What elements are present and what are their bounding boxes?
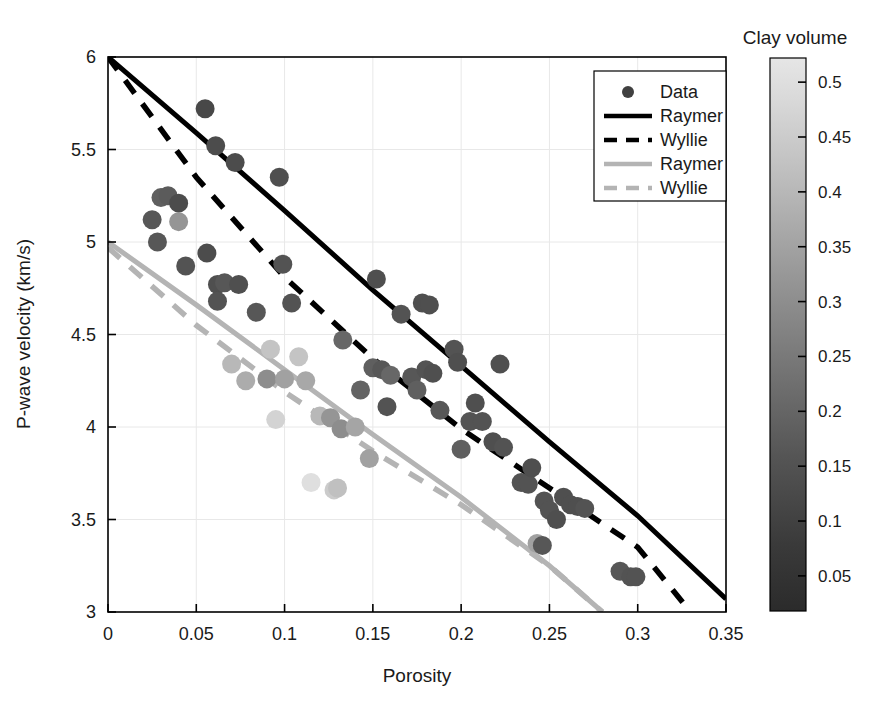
data-point [273, 255, 292, 274]
colorbar-tick-label: 0.4 [818, 183, 842, 202]
x-tick-label: 0.35 [708, 624, 743, 644]
data-point [392, 305, 411, 324]
x-tick-label: 0.05 [179, 624, 214, 644]
data-point [490, 355, 509, 374]
data-point [360, 449, 379, 468]
legend-item-label: Wyllie [660, 130, 708, 150]
data-point [377, 397, 396, 416]
data-point [575, 499, 594, 518]
data-point [423, 364, 442, 383]
x-axis-label: Porosity [383, 665, 452, 686]
data-point [289, 347, 308, 366]
data-point [176, 257, 195, 276]
data-point [367, 270, 386, 289]
x-tick-label: 0.2 [449, 624, 474, 644]
y-tick-label: 5.5 [71, 140, 96, 160]
colorbar: Clay volume 0.050.10.150.20.250.30.350.4… [743, 27, 851, 611]
legend-item-label: Raymer [660, 106, 723, 126]
data-point [257, 369, 276, 388]
x-tick-label: 0.25 [532, 624, 567, 644]
y-tick-label: 4 [86, 417, 96, 437]
legend-item-label: Raymer [660, 154, 723, 174]
colorbar-tick-label: 0.3 [818, 293, 842, 312]
x-tick-label: 0.3 [625, 624, 650, 644]
data-point [148, 233, 167, 252]
colorbar-tick-label: 0.15 [818, 457, 851, 476]
colorbar-title: Clay volume [743, 27, 848, 48]
data-point [473, 412, 492, 431]
data-point [275, 369, 294, 388]
data-point [143, 210, 162, 229]
plot-canvas: 00.050.10.150.20.250.30.35 33.544.555.56… [0, 0, 882, 708]
y-axis-label: P-wave velocity (km/s) [13, 239, 34, 429]
data-point [247, 303, 266, 322]
y-tick-label: 5 [86, 232, 96, 252]
data-point [261, 340, 280, 359]
data-point [270, 168, 289, 187]
colorbar-tick-label: 0.05 [818, 567, 851, 586]
colorbar-tick-label: 0.1 [818, 512, 842, 531]
data-point [266, 410, 285, 429]
colorbar-tick-label: 0.45 [818, 128, 851, 147]
data-point [533, 536, 552, 555]
data-point [302, 473, 321, 492]
data-point [296, 371, 315, 390]
y-tick-label: 3 [86, 602, 96, 622]
data-point [448, 353, 467, 372]
colorbar-tick-label: 0.35 [818, 238, 851, 257]
data-point [222, 355, 241, 374]
legend-item-label: Data [660, 82, 699, 102]
data-point [466, 393, 485, 412]
data-point [522, 458, 541, 477]
data-point [196, 99, 215, 118]
data-point [626, 567, 645, 586]
colorbar-tick-label: 0.2 [818, 402, 842, 421]
data-point [547, 510, 566, 529]
figure-container: 00.050.10.150.20.250.30.35 33.544.555.56… [0, 0, 882, 708]
legend[interactable]: DataRaymerWyllieRaymerWyllie [594, 71, 726, 201]
data-point [236, 371, 255, 390]
x-tick-label: 0.1 [272, 624, 297, 644]
data-point [452, 440, 471, 459]
y-tick-label: 3.5 [71, 510, 96, 530]
data-point [197, 244, 216, 263]
legend-item-label: Wyllie [660, 178, 708, 198]
data-point [408, 381, 427, 400]
colorbar-gradient [770, 58, 806, 611]
data-point [519, 475, 538, 494]
data-point [169, 194, 188, 213]
data-point [420, 295, 439, 314]
data-point [282, 294, 301, 313]
data-point [381, 366, 400, 385]
data-point [208, 292, 227, 311]
data-point [169, 212, 188, 231]
data-point [229, 275, 248, 294]
data-point [328, 479, 347, 498]
y-tick-label: 4.5 [71, 325, 96, 345]
colorbar-tick-label: 0.5 [818, 73, 842, 92]
legend-marker-data-point [622, 86, 634, 98]
y-tick-label: 6 [86, 47, 96, 67]
x-tick-label: 0.15 [355, 624, 390, 644]
data-point [430, 401, 449, 420]
data-point [206, 136, 225, 155]
data-point [346, 418, 365, 437]
data-point [494, 438, 513, 457]
data-point [226, 153, 245, 172]
colorbar-tick-label: 0.25 [818, 347, 851, 366]
data-point [351, 381, 370, 400]
data-point [333, 331, 352, 350]
x-tick-label: 0 [103, 624, 113, 644]
